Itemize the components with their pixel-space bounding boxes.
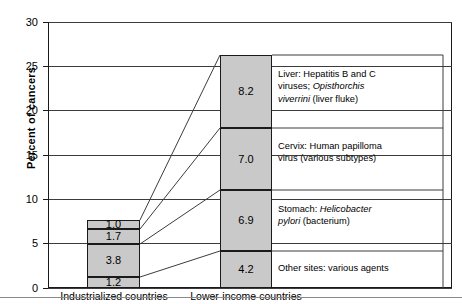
bar-segment-value: 1.7 [106,231,121,242]
annotation-liver: Liver: Hepatitis B and C viruses; Opisth… [278,68,446,105]
annotation-species: pylori [278,216,300,226]
y-axis-line [48,22,49,288]
annotation-cervix: Cervix: Human papilloma virus (various s… [278,140,446,165]
annotation-other-sites: Other sites: various agents [278,262,446,274]
bar-segment-stomach-left[interactable]: 3.8 [87,244,140,277]
bar-segment-value: 1.2 [106,277,121,288]
bar-segment-cervix-right[interactable]: 7.0 [220,128,272,190]
bar-segment-liver-left[interactable]: 1.0 [87,220,140,229]
y-tick-5 [43,243,48,244]
bar-industrialized-countries[interactable]: 1.0 1.7 3.8 1.2 [87,220,140,288]
y-tick-20 [43,110,48,111]
bar-segment-liver-right[interactable]: 8.2 [220,55,272,128]
bar-lower-income-countries[interactable]: 8.2 7.0 6.9 4.2 [220,55,272,288]
annotation-species: Helicobacter [320,204,372,214]
annotation-line: virus (various subtypes) [278,153,376,163]
y-tick-0 [43,288,48,289]
bar-segment-value: 7.0 [238,154,253,165]
y-tick-30 [43,22,48,23]
x-axis-label-lower-income: Lower-income countries [190,290,301,302]
annotation-line: (liver fluke) [310,94,358,104]
bar-segment-cervix-left[interactable]: 1.7 [87,229,140,244]
y-tick-15 [43,155,48,156]
y-tick-label-0: 0 [12,283,38,294]
x-axis-label-industrialized: Industrialized countries [60,290,167,302]
bar-segment-value: 6.9 [238,215,253,226]
annotation-line: Stomach: [278,204,320,214]
bar-segment-value: 8.2 [238,86,253,97]
stacked-bar-chart-figure: 30 25 20 15 10 5 0 Percent of cancers 1.… [0,0,462,304]
bar-segment-value: 4.2 [238,264,253,275]
y-tick-label-30: 30 [12,17,38,28]
bar-segment-value: 3.8 [106,255,121,266]
bar-segment-other-right[interactable]: 4.2 [220,251,272,288]
bar-segment-other-left[interactable]: 1.2 [87,277,140,288]
annotation-line: viruses; [278,81,313,91]
annotation-stomach: Stomach: Helicobacter pylori (bacterium) [278,203,446,228]
y-tick-10 [43,199,48,200]
y-tick-label-10: 10 [12,194,38,205]
page-bottom-rule [0,297,462,298]
gridline-30 [48,22,452,23]
annotation-species: viverrini [278,94,310,104]
annotation-species: Opisthorchis [313,81,365,91]
annotation-line: Cervix: Human papilloma [278,141,382,151]
y-axis-title: Percent of cancers [25,43,37,193]
y-tick-label-5: 5 [12,238,38,249]
annotation-line: Other sites: various agents [278,263,389,273]
y-tick-25 [43,66,48,67]
annotation-line: (bacterium) [300,216,350,226]
annotation-line: Liver: Hepatitis B and C [278,69,376,79]
gridline-0 [48,288,452,289]
bar-segment-stomach-right[interactable]: 6.9 [220,190,272,251]
